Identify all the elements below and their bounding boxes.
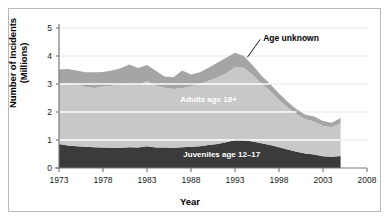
annotation-age-unknown: Age unknown (263, 33, 319, 43)
x-tick-label: 2003 (314, 175, 333, 185)
y-tick-label: 5 (47, 23, 52, 33)
x-tick-label: 1978 (94, 175, 113, 185)
x-tick-label: 1993 (226, 175, 245, 185)
y-tick-label: 0 (47, 163, 52, 173)
series-label: Adults age 18+ (180, 95, 237, 104)
plot-area: 54321019731978198319881993199820032008 A… (0, 0, 389, 220)
annotation-leader-line (247, 39, 260, 57)
x-tick-label: 1988 (182, 175, 201, 185)
x-tick-label: 2008 (358, 175, 377, 185)
stacked-area-chart: 54321019731978198319881993199820032008 A… (0, 0, 389, 220)
y-tick-label: 1 (47, 135, 52, 145)
y-tick-label: 4 (47, 51, 52, 61)
chart-figure: Number of Incidents (Millions) Year 5432… (0, 0, 389, 220)
y-tick-label: 3 (47, 79, 52, 89)
x-tick-label: 1973 (50, 175, 69, 185)
y-tick-label: 2 (47, 107, 52, 117)
x-tick-label: 1983 (138, 175, 157, 185)
series-label: Juveniles age 12–17 (183, 150, 260, 159)
chart-annotations: Age unknown (247, 33, 319, 57)
x-tick-label: 1998 (270, 175, 289, 185)
